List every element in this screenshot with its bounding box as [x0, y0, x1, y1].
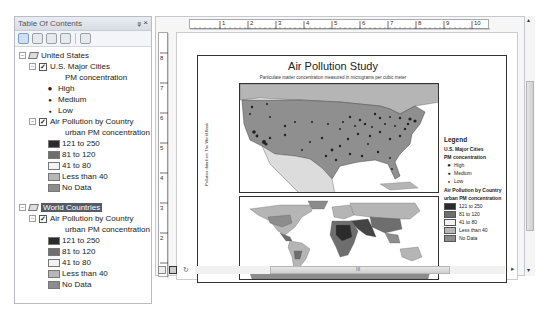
toc-title: Table Of Contents — [18, 19, 82, 28]
swatch-121-250 — [48, 140, 60, 148]
scroll-down-arrow-icon[interactable]: ▾ — [527, 266, 530, 273]
list-by-visibility-button[interactable] — [46, 33, 57, 44]
ruler-tick: 9 — [446, 20, 449, 26]
map-subtitle[interactable]: Particulate matter concentration measure… — [198, 75, 468, 80]
layer-visibility-checkbox[interactable]: ✓ — [39, 215, 47, 223]
legend-item: ● Medium — [444, 169, 506, 177]
swatch-81-120 — [48, 248, 60, 256]
swatch-no-data — [48, 184, 60, 192]
us-map-frame[interactable] — [239, 83, 439, 193]
pin-icon[interactable]: ᵩ — [138, 18, 142, 27]
legend-item: No Data — [444, 234, 506, 242]
toc-tree: − United States − ✓ U.S. Major Cities PM… — [15, 47, 151, 290]
legend-class: Less than 40 — [15, 171, 151, 182]
layout-view-button[interactable] — [169, 266, 177, 274]
legend-class: 41 to 80 — [15, 257, 151, 268]
class-label: 121 to 250 — [62, 139, 100, 148]
legend-field: PM concentration — [444, 154, 506, 160]
scroll-right-arrow-icon[interactable]: ▸ — [511, 265, 515, 273]
class-label: 41 to 80 — [62, 161, 91, 170]
options-button[interactable] — [80, 33, 91, 44]
data-view-button[interactable] — [158, 266, 166, 274]
collapse-icon[interactable]: − — [19, 204, 26, 211]
legend-class: 81 to 120 — [15, 149, 151, 160]
data-credit-text[interactable]: Pollution data from The World Bank — [204, 123, 209, 186]
vertical-scroll-thumb[interactable] — [526, 81, 534, 231]
collapse-icon[interactable]: − — [29, 63, 36, 70]
map-neatline: Air Pollution Study Particulate matter c… — [197, 55, 507, 283]
medium-symbol-icon: ● — [45, 97, 55, 103]
legend-label: No Data — [459, 235, 477, 241]
dataframe-label: United States — [41, 51, 89, 60]
list-by-selection-button[interactable] — [60, 33, 71, 44]
horizontal-scroll-thumb[interactable]: III — [270, 266, 450, 274]
list-by-drawing-order-button[interactable] — [18, 33, 29, 44]
vertical-scrollbar[interactable]: ▴ ▾ — [525, 16, 535, 276]
field-label: urban PM concentration — [65, 128, 150, 137]
refresh-icon[interactable]: ↻ — [183, 266, 189, 274]
scroll-up-arrow-icon[interactable]: ▴ — [527, 16, 530, 23]
legend-label: Medium — [454, 170, 472, 176]
low-symbol-icon: ● — [444, 179, 454, 184]
low-symbol-icon: ● — [45, 108, 55, 114]
toc-toolbar — [15, 31, 151, 47]
ruler-tick: 6 — [362, 20, 365, 26]
layer-visibility-checkbox[interactable]: ✓ — [39, 118, 47, 126]
layer-air-pollution-us[interactable]: − ✓ Air Pollution by Country — [15, 116, 151, 127]
layer-us-major-cities[interactable]: − ✓ U.S. Major Cities — [15, 61, 151, 72]
field-label: PM concentration — [65, 73, 127, 82]
class-label: 121 to 250 — [62, 236, 100, 245]
legend-item: ● Low — [444, 177, 506, 185]
ruler-tick: 5 — [334, 20, 337, 26]
dataframe-icon — [28, 204, 39, 211]
vertical-ruler: 8 7 6 5 4 3 2 1 — [158, 32, 168, 277]
legend-label: 81 to 120 — [459, 211, 480, 217]
collapse-icon[interactable]: − — [19, 52, 26, 59]
ruler-tick: 3 — [278, 20, 281, 26]
swatch-41-80 — [48, 162, 60, 170]
class-label: 81 to 120 — [62, 247, 95, 256]
class-label: Less than 40 — [62, 269, 108, 278]
map-title[interactable]: Air Pollution Study — [198, 60, 468, 72]
dataframe-label: World Countries — [41, 203, 102, 212]
legend-class: No Data — [15, 182, 151, 193]
ruler-tick: 6 — [160, 115, 163, 121]
legend-class: 121 to 250 — [15, 235, 151, 246]
map-legend[interactable]: Legend U.S. Major Cities PM concentratio… — [444, 136, 506, 242]
layout-view[interactable]: 1 2 3 4 5 6 7 8 9 10 8 7 — [155, 16, 525, 276]
legend-title: Legend — [444, 136, 506, 143]
ruler-tick: 2 — [250, 20, 253, 26]
swatch-no-data — [444, 235, 456, 242]
legend-class: Less than 40 — [15, 268, 151, 279]
dataframe-united-states[interactable]: − United States — [15, 50, 151, 61]
layer-air-pollution-world[interactable]: − ✓ Air Pollution by Country — [15, 213, 151, 224]
list-by-source-button[interactable] — [32, 33, 43, 44]
ruler-tick: 4 — [160, 175, 163, 181]
ruler-tick: 1 — [222, 20, 225, 26]
legend-item: 121 to 250 — [444, 202, 506, 210]
ruler-tick: 10 — [474, 20, 481, 26]
ruler-tick: 2 — [160, 235, 163, 241]
dataframe-world-countries[interactable]: − World Countries — [15, 202, 151, 213]
collapse-icon[interactable]: − — [29, 215, 36, 222]
table-of-contents-panel: Table Of Contents ᵩ × − United States − — [14, 16, 152, 304]
horizontal-scrollbar[interactable]: III — [195, 266, 505, 274]
legend-class-high: ● High — [15, 83, 151, 94]
legend-class: 41 to 80 — [15, 160, 151, 171]
field-label-row: urban PM concentration — [15, 224, 151, 235]
class-label: Less than 40 — [62, 172, 108, 181]
legend-layer-title: Air Pollution by Country — [444, 187, 506, 193]
toc-title-bar: Table Of Contents ᵩ × — [15, 17, 151, 31]
legend-label: 121 to 250 — [459, 203, 483, 209]
legend-item: Less than 40 — [444, 226, 506, 234]
collapse-icon[interactable]: − — [29, 118, 36, 125]
swatch-less-than-40 — [48, 173, 60, 181]
ruler-tick: 4 — [306, 20, 309, 26]
class-label: 81 to 120 — [62, 150, 95, 159]
close-icon[interactable]: × — [143, 18, 148, 27]
layout-bottom-bar: ↻ ॥ ◂ III ▸ — [155, 264, 525, 276]
legend-class-low: ● Low — [15, 105, 151, 116]
layer-visibility-checkbox[interactable]: ✓ — [39, 63, 47, 71]
legend-label: 41 to 80 — [459, 219, 477, 225]
class-label: No Data — [62, 280, 91, 289]
